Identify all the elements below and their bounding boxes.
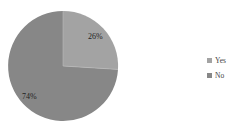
legend-label-yes: Yes [215,56,226,65]
chart-legend: Yes No [207,53,226,83]
slice-label-no: 74% [22,92,37,101]
legend-item-no: No [207,68,226,83]
legend-swatch-yes [207,58,212,63]
slice-label-yes: 26% [88,32,103,41]
legend-item-yes: Yes [207,53,226,68]
pie-chart [0,0,234,134]
legend-swatch-no [207,73,212,78]
legend-label-no: No [215,71,224,80]
